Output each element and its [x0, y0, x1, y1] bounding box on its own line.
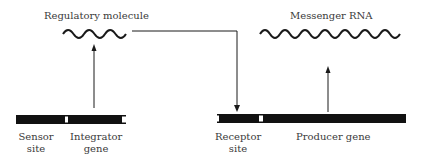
producer-arrowhead-icon [326, 66, 331, 73]
arrow-to-receptor-icon [234, 105, 240, 112]
sensor-integrator-gap [65, 117, 68, 123]
receptor-site-line2: site [215, 143, 261, 155]
receptor-site-label: Receptor site [215, 131, 261, 155]
integrator-gene-label: Integrator gene [70, 131, 122, 155]
left-bar-end-gap [122, 117, 126, 123]
gene-regulation-diagram: Regulatory molecule Messenger RNA Sensor… [0, 0, 426, 162]
integrator-arrowhead-icon [92, 44, 97, 51]
sensor-site-line1: Sensor [16, 131, 56, 143]
integrator-gene-line2: gene [70, 143, 122, 155]
regulatory-to-receptor-connector [132, 31, 237, 106]
messenger-rna-label: Messenger RNA [290, 10, 373, 22]
integrator-gene-line1: Integrator [70, 131, 122, 143]
right-dna-bar [217, 114, 406, 123]
sensor-site-line2: site [16, 143, 56, 155]
left-dna-bar [16, 115, 126, 124]
receptor-site-line1: Receptor [215, 131, 261, 143]
sensor-site-label: Sensor site [16, 131, 56, 155]
right-bar-start-gap [217, 116, 219, 122]
producer-gene-label: Producer gene [296, 131, 371, 143]
regulatory-molecule-label: Regulatory molecule [44, 10, 149, 22]
regulatory-molecule-wave [63, 30, 126, 38]
receptor-producer-gap [259, 116, 263, 122]
messenger-rna-wave [260, 30, 400, 38]
